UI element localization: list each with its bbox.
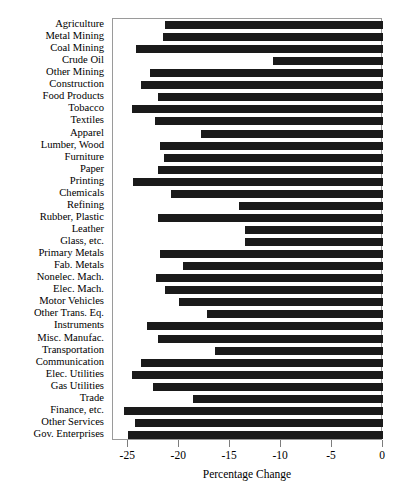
bar [245, 238, 383, 246]
category-label: Finance, etc. [0, 404, 104, 415]
plot-frame [112, 18, 382, 440]
bar [239, 202, 383, 210]
category-label-column: AgricultureMetal MiningCoal MiningCrude … [0, 18, 108, 438]
bar [158, 214, 383, 222]
bar [193, 395, 383, 403]
x-tick-mark [280, 440, 281, 447]
category-label: Communication [0, 356, 104, 367]
x-tick-mark [127, 440, 128, 447]
bars-layer [113, 19, 381, 439]
x-axis: -25-20-15-10-50 [112, 440, 382, 490]
category-label: Other Mining [0, 66, 104, 77]
category-label: Textiles [0, 114, 104, 125]
bar [132, 105, 383, 113]
bar [160, 142, 383, 150]
bar [132, 371, 383, 379]
x-tick-mark [331, 440, 332, 447]
bar [155, 117, 383, 125]
bar [135, 419, 383, 427]
bar [245, 226, 383, 234]
category-label: Nonelec. Mach. [0, 271, 104, 282]
bar [215, 347, 383, 355]
bar [147, 322, 383, 330]
category-label: Printing [0, 175, 104, 186]
x-tick-label: -5 [311, 449, 351, 461]
chart-page: AgricultureMetal MiningCoal MiningCrude … [0, 0, 408, 490]
bar [165, 286, 383, 294]
bar [158, 166, 383, 174]
x-axis-title: Percentage Change [112, 468, 382, 480]
category-label: Food Products [0, 90, 104, 101]
bar [158, 93, 383, 101]
bar [141, 81, 383, 89]
x-tick-label: -25 [107, 449, 147, 461]
bar [153, 383, 383, 391]
x-tick-mark [178, 440, 179, 447]
category-label: Refining [0, 199, 104, 210]
category-label: Motor Vehicles [0, 295, 104, 306]
x-tick-label: -20 [158, 449, 198, 461]
bar [133, 178, 383, 186]
category-label: Metal Mining [0, 30, 104, 41]
bar [136, 45, 383, 53]
category-label: Elec. Mach. [0, 283, 104, 294]
category-label: Construction [0, 78, 104, 89]
bar [160, 250, 383, 258]
category-label: Agriculture [0, 18, 104, 29]
category-label: Coal Mining [0, 42, 104, 53]
category-label: Misc. Manufac. [0, 332, 104, 343]
category-label: Rubber, Plastic [0, 211, 104, 222]
x-tick-mark [229, 440, 230, 447]
bar [183, 262, 383, 270]
category-label: Apparel [0, 127, 104, 138]
category-label: Primary Metals [0, 247, 104, 258]
x-tick-label: -15 [209, 449, 249, 461]
bar [273, 57, 383, 65]
category-label: Paper [0, 163, 104, 174]
bar [164, 154, 383, 162]
bar [171, 190, 383, 198]
bar [179, 298, 383, 306]
category-label: Glass, etc. [0, 235, 104, 246]
category-label: Elec. Utilities [0, 368, 104, 379]
bar [141, 359, 383, 367]
bar [150, 69, 383, 77]
category-label: Gas Utilities [0, 380, 104, 391]
category-label: Lumber, Wood [0, 139, 104, 150]
category-label: Tobacco [0, 102, 104, 113]
x-tick-mark [382, 440, 383, 447]
bar [207, 310, 383, 318]
bar [128, 431, 383, 439]
category-label: Trade [0, 392, 104, 403]
x-tick-label: 0 [362, 449, 402, 461]
bar [165, 21, 383, 29]
category-label: Gov. Enterprises [0, 428, 104, 439]
category-label: Transportation [0, 344, 104, 355]
category-label: Fab. Metals [0, 259, 104, 270]
category-label: Other Services [0, 416, 104, 427]
category-label: Leather [0, 223, 104, 234]
x-tick-label: -10 [260, 449, 300, 461]
bar [158, 335, 383, 343]
bar [201, 130, 383, 138]
category-label: Other Trans. Eq. [0, 307, 104, 318]
bar [163, 33, 383, 41]
bar [156, 274, 383, 282]
category-label: Chemicals [0, 187, 104, 198]
category-label: Crude Oil [0, 54, 104, 65]
category-label: Instruments [0, 319, 104, 330]
bar [124, 407, 383, 415]
category-label: Furniture [0, 151, 104, 162]
